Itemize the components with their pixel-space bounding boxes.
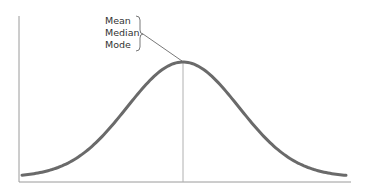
label-mode: Mode bbox=[105, 39, 131, 50]
normal-distribution-diagram: Mean Median Mode bbox=[0, 0, 371, 195]
bell-curve bbox=[22, 62, 346, 175]
label-mean: Mean bbox=[105, 15, 131, 26]
label-median: Median bbox=[105, 27, 140, 38]
pointer-line bbox=[143, 34, 182, 61]
